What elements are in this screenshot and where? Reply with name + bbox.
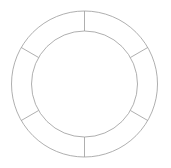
outer-ring bbox=[12, 11, 158, 157]
spoke-2 bbox=[130, 111, 147, 121]
rings-group bbox=[12, 11, 158, 157]
spokes-group bbox=[21, 11, 147, 157]
spoke-4 bbox=[21, 111, 38, 121]
segmented-ring-diagram bbox=[0, 0, 171, 168]
spoke-5 bbox=[21, 48, 38, 58]
spoke-1 bbox=[130, 48, 147, 58]
inner-ring bbox=[32, 31, 138, 137]
diagram-root bbox=[0, 0, 171, 168]
